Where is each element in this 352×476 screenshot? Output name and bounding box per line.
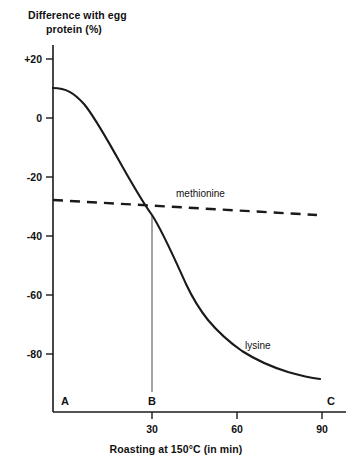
x-axis-title: Roasting at 150°C (in min) <box>0 443 352 455</box>
series-line-lysine <box>53 88 320 379</box>
y-tick-label-5: -80 <box>27 348 42 360</box>
chart-plot-area: +20 0 -20 -40 -60 -80 30 60 90 A B C <box>0 0 352 476</box>
region-marker-a: A <box>61 395 69 407</box>
region-marker-b: B <box>148 395 156 407</box>
y-tick-label-2: -20 <box>27 171 42 183</box>
y-tick-label-4: -60 <box>27 289 42 301</box>
series-line-methionine <box>53 200 317 215</box>
x-tick-label-1: 60 <box>231 423 243 435</box>
y-axis-tick-labels: +20 0 -20 -40 -60 -80 <box>24 53 42 360</box>
region-markers: A B C <box>61 395 335 407</box>
x-tick-label-2: 90 <box>316 423 328 435</box>
y-tick-label-3: -40 <box>27 230 42 242</box>
region-marker-c: C <box>327 395 335 407</box>
x-axis-tick-labels: 30 60 90 <box>146 423 328 435</box>
x-axis-ticks <box>152 412 322 419</box>
y-tick-label-1: 0 <box>36 112 42 124</box>
series-label-methionine: methionine <box>176 188 225 199</box>
y-axis-ticks <box>46 59 53 354</box>
series-label-lysine: lysine <box>245 340 271 351</box>
chart-page: Difference with eggprotein (%) +20 0 -20… <box>0 0 352 476</box>
x-tick-label-0: 30 <box>146 423 158 435</box>
y-tick-label-0: +20 <box>24 53 42 65</box>
